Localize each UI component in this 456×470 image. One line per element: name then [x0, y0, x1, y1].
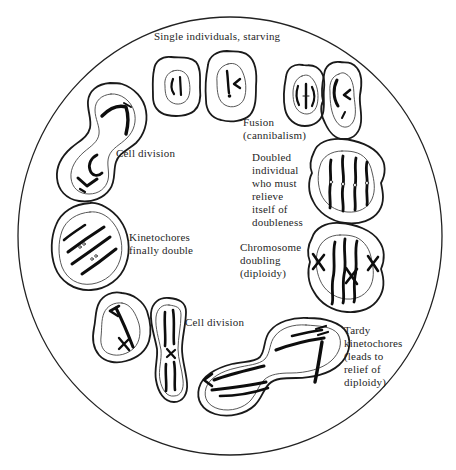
label-doubled-individual: Doubled individual who must relieve itse…: [252, 151, 303, 229]
bottom-dividing-cell-pair: [93, 292, 187, 402]
chromosome-doubling-cell: [308, 223, 384, 312]
cell-cycle-drawing: [0, 0, 456, 470]
label-chromosome-doubling: Chromosome doubling (diploidy): [240, 241, 301, 280]
kinetochores-finally-double-cell: [52, 203, 129, 290]
label-cell-division-left: Cell division: [116, 147, 175, 160]
label-tardy-kinetochores: Tardy kinetochores (leads to relief of d…: [344, 324, 403, 389]
label-fusion-cannibalism: Fusion (cannibalism): [243, 116, 306, 142]
upper-left-dividing-cell: [57, 83, 147, 201]
diploidy-cycle-figure: Single individuals, starving Cell divisi…: [0, 0, 456, 470]
doubled-individual-cell: [309, 139, 385, 224]
label-kinetochores-finally-double: Kinetochores finally double: [129, 231, 193, 257]
single-individual-cell-2: [206, 51, 257, 121]
label-cell-division-bottom: Cell division: [185, 316, 244, 329]
single-individual-cell-1: [153, 57, 201, 116]
label-single-individuals: Single individuals, starving: [154, 30, 280, 43]
tardy-kinetochores-dividing-cell: [198, 318, 349, 416]
